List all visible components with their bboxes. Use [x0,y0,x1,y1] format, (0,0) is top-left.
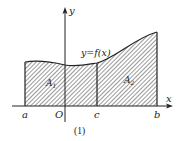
point-b-label: b [154,109,160,120]
figure-caption: (1) [74,126,85,137]
point-a-label: a [22,109,28,120]
point-c-label: c [94,109,100,120]
origin-label: O [55,109,63,120]
shaded-region [25,32,157,106]
x-axis-label: x [166,93,172,104]
curve-label: y=f(x) [80,47,111,58]
y-axis-label: y [68,5,75,16]
area-diagram: y x O a c b y=f(x) A1 A2 (1) [0,0,178,141]
